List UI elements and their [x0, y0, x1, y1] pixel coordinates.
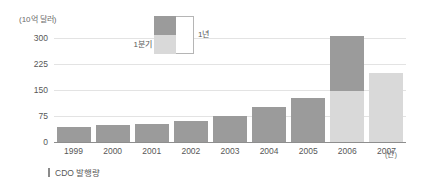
bar-2004 — [252, 107, 286, 142]
chart-figure: (10억 달러) 075150225300 (년) 1분기 1년 CDO 발행량… — [0, 0, 422, 192]
bar-segment-year — [57, 127, 91, 142]
bar-segment-year — [135, 124, 169, 142]
bar-segment-year — [291, 98, 325, 142]
bar-segment-year — [96, 125, 130, 142]
bar-segment-year — [213, 116, 247, 142]
legend-label-year: 1년 — [198, 28, 209, 39]
bar-2005 — [291, 98, 325, 142]
plot-area: 075150225300 — [54, 26, 406, 142]
bar-segment-year — [252, 107, 286, 142]
bar-2003 — [213, 116, 247, 142]
y-axis-tick-label: 225 — [2, 59, 48, 69]
bar-segment-year — [174, 121, 208, 142]
caption-marker-icon — [48, 168, 50, 177]
x-axis-baseline — [54, 142, 406, 143]
caption-text: CDO 발행량 — [55, 166, 100, 178]
legend-bracket-box — [176, 16, 194, 54]
bar-2007 — [369, 73, 403, 142]
legend-swatch-quarter — [154, 35, 176, 54]
bar-1999 — [57, 127, 91, 142]
y-axis-tick-label: 75 — [2, 111, 48, 121]
y-axis-tick-label: 0 — [2, 137, 48, 147]
y-axis-unit-label: (10억 달러) — [19, 13, 56, 24]
legend-swatch-year — [154, 16, 176, 35]
chart-legend: 1분기 1년 — [120, 16, 200, 60]
bar-segment-year — [330, 36, 364, 90]
bar-2000 — [96, 125, 130, 142]
bar-segment-quarter — [369, 73, 403, 142]
legend-label-quarter: 1분기 — [120, 38, 152, 49]
x-axis-tick-label: 2007 — [363, 146, 409, 156]
legend-swatch-stacked — [154, 16, 176, 54]
chart-caption: CDO 발행량 — [48, 166, 100, 178]
bar-2002 — [174, 121, 208, 142]
y-axis-tick-label: 300 — [2, 33, 48, 43]
bar-segment-quarter — [330, 91, 364, 142]
bar-2001 — [135, 124, 169, 142]
y-axis-tick-label: 150 — [2, 85, 48, 95]
bar-2006 — [330, 36, 364, 142]
